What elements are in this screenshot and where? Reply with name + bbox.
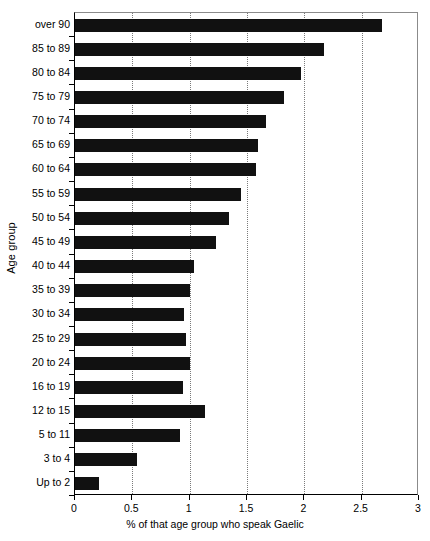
y-axis-tick [69, 398, 74, 399]
y-axis-tick-label: 40 to 44 [12, 260, 70, 271]
y-axis-tick [69, 229, 74, 230]
x-axis-tick-label: 3 [398, 502, 430, 514]
gridline [362, 13, 363, 494]
plot-area [74, 12, 418, 495]
bar [75, 405, 205, 418]
bar [75, 67, 301, 80]
y-axis-tick [69, 495, 74, 496]
x-axis-tick [418, 495, 419, 500]
y-axis-tick-label: 55 to 59 [12, 188, 70, 199]
bar [75, 284, 190, 297]
bar [75, 139, 258, 152]
x-axis-tick-label: 2.5 [341, 502, 381, 514]
bar [75, 453, 137, 466]
y-axis-tick [69, 157, 74, 158]
bar [75, 357, 190, 370]
y-axis-tick [69, 350, 74, 351]
x-axis-tick-label: 0.5 [111, 502, 151, 514]
y-axis-tick [69, 471, 74, 472]
y-axis-tick [69, 326, 74, 327]
bar [75, 43, 324, 56]
x-axis-tick [246, 495, 247, 500]
y-axis-tick-label: 12 to 15 [12, 405, 70, 416]
gridline [304, 13, 305, 494]
y-axis-tick-label: 60 to 64 [12, 163, 70, 174]
x-axis-tick [189, 495, 190, 500]
bar [75, 19, 382, 32]
gridline [190, 13, 191, 494]
bar [75, 381, 183, 394]
x-axis-tick [361, 495, 362, 500]
bar [75, 333, 186, 346]
y-axis-tick [69, 60, 74, 61]
bar [75, 260, 194, 273]
y-axis-tick-label: 75 to 79 [12, 91, 70, 102]
y-axis-tick-label: 45 to 49 [12, 236, 70, 247]
bar [75, 212, 229, 225]
bar-chart: Age group over 9085 to 8980 to 8475 to 7… [0, 0, 430, 541]
y-axis-tick-label: 30 to 34 [12, 308, 70, 319]
y-axis-tick [69, 205, 74, 206]
y-axis-tick-labels: over 9085 to 8980 to 8475 to 7970 to 746… [12, 12, 70, 495]
y-axis-tick [69, 423, 74, 424]
y-axis-tick [69, 374, 74, 375]
bar [75, 163, 256, 176]
y-axis-tick-label: 50 to 54 [12, 212, 70, 223]
y-axis-tick [69, 254, 74, 255]
y-axis-tick [69, 84, 74, 85]
gridline [247, 13, 248, 494]
y-axis-tick-label: 85 to 89 [12, 43, 70, 54]
x-axis-tick [74, 495, 75, 500]
gridline [132, 13, 133, 494]
x-axis-tick-label: 1.5 [226, 502, 266, 514]
y-axis-tick-label: 70 to 74 [12, 115, 70, 126]
bar [75, 308, 184, 321]
x-axis-title: % of that age group who speak Gaelic [0, 518, 430, 530]
y-axis-tick-label: 5 to 11 [12, 429, 70, 440]
y-axis-tick-label: 25 to 29 [12, 333, 70, 344]
x-axis-tick-label: 2 [283, 502, 323, 514]
bar [75, 115, 266, 128]
y-axis-tick-label: 80 to 84 [12, 67, 70, 78]
y-axis-tick [69, 181, 74, 182]
y-axis-tick [69, 109, 74, 110]
x-axis-tick-label: 1 [169, 502, 209, 514]
x-axis-tick [303, 495, 304, 500]
x-axis-tick [131, 495, 132, 500]
bar [75, 91, 284, 104]
y-axis-tick-label: 35 to 39 [12, 284, 70, 295]
y-axis-tick-label: over 90 [12, 19, 70, 30]
bar [75, 236, 216, 249]
y-axis-tick [69, 447, 74, 448]
y-axis-tick [69, 278, 74, 279]
bar [75, 429, 180, 442]
y-axis-tick-label: 3 to 4 [12, 453, 70, 464]
y-axis-tick-label: 20 to 24 [12, 357, 70, 368]
y-axis-tick-label: Up to 2 [12, 477, 70, 488]
x-axis-tick-label: 0 [54, 502, 94, 514]
y-axis-tick [69, 36, 74, 37]
bar [75, 477, 99, 490]
y-axis-tick-label: 65 to 69 [12, 139, 70, 150]
y-axis-tick [69, 133, 74, 134]
y-axis-tick-label: 16 to 19 [12, 381, 70, 392]
y-axis-tick [69, 302, 74, 303]
bar [75, 188, 241, 201]
